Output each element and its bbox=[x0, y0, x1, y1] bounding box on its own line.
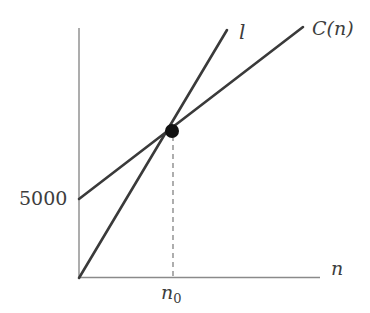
x-tick-label-n0-base: n bbox=[161, 281, 173, 303]
x-tick-label-n0-subscript: 0 bbox=[173, 291, 181, 306]
curve-cn-label: C(n) bbox=[312, 19, 354, 38]
x-tick-label-n0: n0 bbox=[161, 283, 182, 305]
intersection-point-marker bbox=[165, 124, 179, 138]
chart-plot-area bbox=[0, 0, 370, 313]
series-line-cn bbox=[79, 27, 303, 199]
series-line-l bbox=[79, 30, 227, 278]
line-l-label: l bbox=[239, 22, 245, 42]
y-intercept-label: 5000 bbox=[19, 189, 67, 208]
figure-canvas: 5000 l C(n) n n0 bbox=[0, 0, 370, 313]
x-axis-label: n bbox=[331, 259, 343, 278]
